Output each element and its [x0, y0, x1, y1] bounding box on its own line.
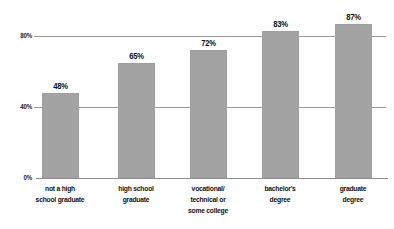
bar-4[interactable]: [262, 31, 299, 178]
gridline-80: [38, 36, 386, 37]
bar-5[interactable]: [335, 24, 372, 178]
y-axis-tick-40: 40%: [6, 103, 32, 111]
bar-value-label-3: 72%: [184, 38, 232, 48]
x-axis-label-3-line2: technical or: [170, 194, 246, 205]
x-axis-label-3-line3: some college: [170, 205, 246, 216]
x-axis-label-5-line2: degree: [315, 194, 391, 205]
x-axis-label-2-line1: high school: [98, 183, 174, 194]
bar-chart: 80% 40% 0% 48% 65% 72% 83% 87% not a hig…: [0, 0, 394, 229]
bar-value-label-2: 65%: [112, 51, 160, 61]
bar-1[interactable]: [42, 93, 79, 178]
y-axis-tick-0: 0%: [6, 174, 32, 182]
plot-area: 80% 40% 0% 48% 65% 72% 83% 87% not a hig…: [0, 0, 394, 229]
bar-value-label-5: 87%: [329, 12, 377, 22]
x-axis-label-2: high school graduate: [98, 183, 174, 205]
x-axis-label-5-line1: graduate: [315, 183, 391, 194]
bar-2[interactable]: [118, 63, 155, 178]
x-axis-label-3-line1: vocational/: [170, 183, 246, 194]
x-axis-label-1-line1: not a high: [22, 183, 98, 194]
x-axis-label-3: vocational/ technical or some college: [170, 183, 246, 216]
bar-3[interactable]: [190, 50, 227, 178]
x-axis-label-4-line1: bachelor's: [242, 183, 318, 194]
x-axis-label-1-line2: school graduate: [22, 194, 98, 205]
tick-stub-40: [34, 107, 40, 108]
tick-stub-80: [34, 36, 40, 37]
x-axis-label-2-line2: graduate: [98, 194, 174, 205]
x-axis-label-4-line2: degree: [242, 194, 318, 205]
x-axis-label-4: bachelor's degree: [242, 183, 318, 205]
axis-baseline-0: [36, 178, 388, 179]
x-axis-label-1: not a high school graduate: [22, 183, 98, 205]
x-axis-label-5: graduate degree: [315, 183, 391, 205]
bar-value-label-1: 48%: [36, 81, 84, 91]
bar-value-label-4: 83%: [256, 19, 304, 29]
y-axis-tick-80: 80%: [6, 32, 32, 40]
